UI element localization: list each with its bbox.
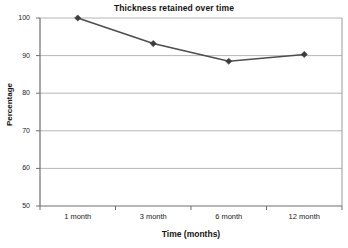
plot-background <box>40 18 342 206</box>
chart-container: Thickness retained over time Percentage <box>0 0 348 248</box>
x-tick-label-12-month: 12 month <box>267 212 343 221</box>
y-tick-label-100: 100 <box>4 14 30 21</box>
x-axis-ticks <box>40 206 342 210</box>
y-tick-label-90: 90 <box>4 52 30 59</box>
x-tick-label-3-month: 3 month <box>116 212 192 221</box>
y-tick-label-80: 80 <box>4 89 30 96</box>
y-tick-label-70: 70 <box>4 127 30 134</box>
x-axis-title: Time (months) <box>40 229 342 239</box>
y-tick-label-50: 50 <box>4 202 30 209</box>
plot-area <box>0 0 348 248</box>
x-tick-label-1-month: 1 month <box>40 212 116 221</box>
y-tick-label-60: 60 <box>4 164 30 171</box>
x-tick-label-6-month: 6 month <box>191 212 267 221</box>
